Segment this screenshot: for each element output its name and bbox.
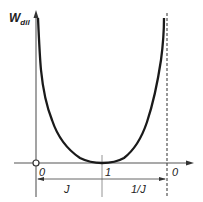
y-axis-arrow-icon	[34, 10, 39, 18]
x-axis-arrow-icon	[186, 161, 194, 166]
energy-curve	[38, 18, 164, 163]
interval-label-inverse-j: 1/J	[131, 183, 146, 195]
y-axis-label: Wdil	[9, 11, 30, 27]
x-tick-label-one: 1	[105, 166, 111, 178]
dimension-arrow-right-icon	[159, 177, 166, 181]
x-tick-label-right-zero: 0	[172, 166, 179, 178]
diagram-canvas: Wdil 0 1 0 J 1/J	[0, 0, 203, 202]
interval-label-j: J	[63, 183, 70, 195]
x-tick-label-left-zero: 0	[39, 166, 46, 178]
